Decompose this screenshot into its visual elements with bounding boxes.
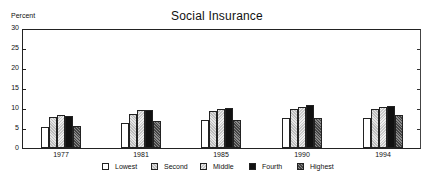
legend-label: Highest	[310, 163, 334, 170]
bar-middle-1994	[379, 107, 387, 148]
y-tick-label: 5	[1, 124, 19, 131]
legend-item-fourth: Fourth	[249, 163, 282, 170]
plot-area	[22, 29, 421, 149]
bar-lowest-1977	[41, 127, 49, 148]
y-tick-label: 30	[1, 24, 19, 31]
y-tick-mark	[22, 69, 26, 70]
y-axis-label: Percent	[11, 12, 35, 19]
chart-title: Social Insurance	[0, 9, 434, 23]
bar-middle-1977	[57, 115, 65, 148]
legend-swatch-icon	[102, 163, 109, 170]
legend-label: Lowest	[115, 163, 137, 170]
bar-second-1977	[49, 117, 57, 148]
right-tick-mark	[417, 109, 420, 110]
legend-item-second: Second	[151, 163, 188, 170]
legend-label: Middle	[213, 163, 234, 170]
y-tick-label: 0	[1, 144, 19, 151]
bar-highest-1990	[314, 118, 322, 148]
legend-label: Fourth	[262, 163, 282, 170]
bar-fourth-1994	[387, 106, 395, 148]
legend-swatch-icon	[297, 163, 304, 170]
x-tick-label: 1977	[41, 151, 81, 158]
x-tick-label: 1994	[363, 151, 403, 158]
x-tick-label: 1981	[121, 151, 161, 158]
y-tick-mark	[22, 109, 26, 110]
bar-middle-1990	[298, 107, 306, 148]
legend-swatch-icon	[151, 163, 158, 170]
y-tick-label: 10	[1, 104, 19, 111]
bar-highest-1985	[233, 120, 241, 148]
right-tick-mark	[417, 89, 420, 90]
bar-lowest-1985	[201, 120, 209, 148]
bar-second-1994	[371, 109, 379, 148]
bar-highest-1994	[395, 115, 403, 148]
legend-label: Second	[164, 163, 188, 170]
bar-second-1981	[129, 114, 137, 148]
bar-fourth-1985	[225, 108, 233, 148]
x-tick-label: 1985	[201, 151, 241, 158]
y-tick-label: 15	[1, 84, 19, 91]
legend-item-lowest: Lowest	[102, 163, 137, 170]
legend-swatch-icon	[200, 163, 207, 170]
y-tick-mark	[22, 49, 26, 50]
right-tick-mark	[417, 69, 420, 70]
bar-fourth-1990	[306, 105, 314, 148]
bar-second-1985	[209, 111, 217, 148]
legend-item-highest: Highest	[297, 163, 334, 170]
y-tick-mark	[22, 89, 26, 90]
x-tick-label: 1990	[282, 151, 322, 158]
right-tick-mark	[417, 49, 420, 50]
y-tick-label: 20	[1, 64, 19, 71]
y-tick-mark	[22, 129, 26, 130]
bar-lowest-1990	[282, 118, 290, 148]
legend-item-middle: Middle	[200, 163, 234, 170]
bar-middle-1981	[137, 110, 145, 148]
bar-second-1990	[290, 109, 298, 148]
bar-lowest-1994	[363, 118, 371, 148]
bar-lowest-1981	[121, 123, 129, 148]
bar-middle-1985	[217, 109, 225, 148]
bar-highest-1977	[73, 126, 81, 148]
legend-swatch-icon	[249, 163, 256, 170]
right-tick-mark	[417, 129, 420, 130]
bar-fourth-1981	[145, 110, 153, 148]
bar-highest-1981	[153, 121, 161, 148]
bar-fourth-1977	[65, 116, 73, 148]
y-tick-label: 25	[1, 44, 19, 51]
